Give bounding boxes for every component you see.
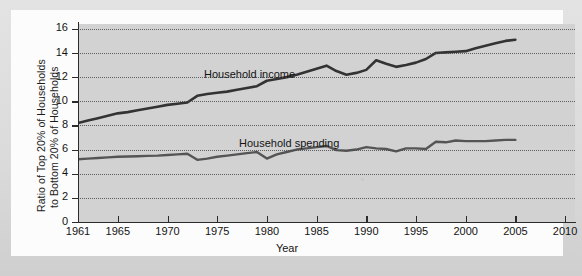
x-axis-line	[77, 222, 576, 223]
x-tick	[515, 216, 516, 223]
y-tick-label: 12	[46, 70, 68, 82]
y-tick	[72, 77, 79, 78]
y-tick	[72, 125, 79, 126]
y-tick-label: 14	[46, 46, 68, 58]
x-tick	[565, 216, 566, 223]
x-tick-label: 2000	[453, 225, 477, 237]
x-tick	[78, 216, 79, 223]
gridline	[78, 150, 575, 151]
x-tick-label: 1970	[155, 225, 179, 237]
y-tick	[72, 198, 79, 199]
y-tick	[72, 174, 79, 175]
gridline	[78, 53, 575, 54]
x-tick-label: 2005	[503, 225, 527, 237]
y-axis-title-line2: to Bottom 20% of Households	[48, 66, 60, 208]
gridline	[78, 174, 575, 175]
scan-speck	[361, 178, 364, 181]
y-tick-label: 8	[46, 118, 68, 130]
x-tick	[118, 216, 119, 223]
y-tick-label: 0	[46, 215, 68, 227]
figure-card: Ratio of Top 20% of Households to Bottom…	[11, 10, 563, 256]
x-tick	[217, 216, 218, 223]
x-tick	[466, 216, 467, 223]
x-tick	[366, 216, 367, 223]
x-tick	[267, 216, 268, 223]
gridline	[78, 29, 575, 30]
plot-clip	[78, 24, 575, 222]
x-tick-label: 1975	[205, 225, 229, 237]
y-tick-label: 16	[46, 21, 68, 33]
y-tick	[72, 101, 79, 102]
x-axis-title: Year	[11, 242, 563, 254]
y-tick-label: 6	[46, 142, 68, 154]
page-background: Ratio of Top 20% of Households to Bottom…	[0, 0, 582, 276]
series-label-spending: Household spending	[239, 137, 339, 149]
gridline	[78, 101, 575, 102]
x-tick-label: 1961	[66, 225, 90, 237]
gridline	[78, 198, 575, 199]
y-tick-label: 2	[46, 190, 68, 202]
x-tick	[317, 216, 318, 223]
y-tick	[72, 53, 79, 54]
x-tick-label: 1965	[106, 225, 130, 237]
plot-area	[78, 24, 575, 222]
gridline	[78, 77, 575, 78]
y-tick-label: 10	[46, 94, 68, 106]
x-tick-label: 1980	[255, 225, 279, 237]
gridline	[78, 125, 575, 126]
x-tick-label: 1995	[404, 225, 428, 237]
x-tick	[416, 216, 417, 223]
x-tick-label: 1990	[354, 225, 378, 237]
y-axis-title-line1: Ratio of Top 20% of Households	[35, 59, 47, 212]
x-tick-label: 1985	[304, 225, 328, 237]
y-tick-label: 4	[46, 166, 68, 178]
x-tick	[168, 216, 169, 223]
y-tick	[72, 29, 79, 30]
y-tick	[72, 150, 79, 151]
chart-figure: Ratio of Top 20% of Households to Bottom…	[11, 10, 563, 256]
x-tick-label: 2010	[553, 225, 577, 237]
series-label-income: Household income	[204, 68, 295, 80]
